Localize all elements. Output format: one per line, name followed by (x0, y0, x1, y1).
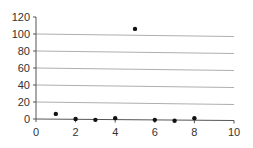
y-tick-label: 40 (18, 79, 30, 91)
x-tick-label: 2 (73, 126, 79, 138)
y-tick-label: 0 (24, 113, 30, 125)
x-tick-label: 6 (152, 126, 158, 138)
data-point (73, 117, 77, 121)
gridline (36, 51, 234, 54)
data-point (54, 112, 58, 116)
x-tick-label: 10 (228, 126, 240, 138)
data-point (153, 118, 157, 122)
data-point (192, 116, 196, 120)
data-point (172, 119, 176, 123)
data-point (93, 118, 97, 122)
x-tick-label: 8 (191, 126, 197, 138)
data-point (133, 27, 137, 31)
gridline (36, 85, 234, 88)
gridline (36, 34, 234, 37)
data-point (113, 116, 117, 120)
x-tick-label: 0 (33, 126, 39, 138)
x-axis-ticks: 0246810 (33, 119, 240, 138)
gridlines (36, 34, 234, 105)
scatter-chart: 020406080100120 0246810 (0, 0, 253, 148)
x-tick-label: 4 (112, 126, 118, 138)
gridline (36, 68, 234, 71)
y-tick-label: 120 (12, 11, 30, 23)
x-axis-line (36, 119, 234, 121)
gridline (36, 102, 234, 105)
y-tick-label: 100 (12, 28, 30, 40)
y-tick-label: 80 (18, 45, 30, 57)
y-axis-ticks: 020406080100120 (12, 11, 36, 125)
y-tick-label: 60 (18, 62, 30, 74)
y-tick-label: 20 (18, 96, 30, 108)
data-points (54, 27, 197, 123)
